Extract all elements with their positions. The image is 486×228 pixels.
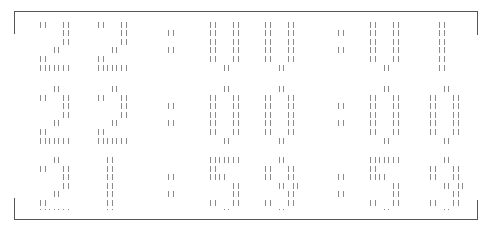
clock-frame-top: [14, 11, 478, 12]
clock-row-3: [0, 150, 486, 210]
clock-row-2: [0, 80, 486, 145]
clock-frame-bottom: [14, 219, 478, 220]
clock-row-1: [0, 20, 486, 75]
